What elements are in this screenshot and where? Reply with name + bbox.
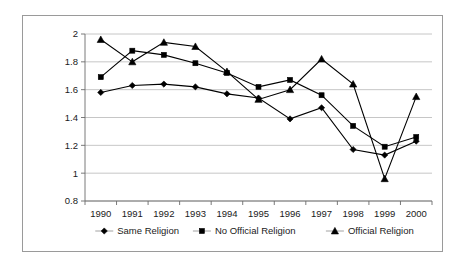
legend-label: Same Religion: [117, 225, 179, 236]
y-tick-label: 2: [73, 28, 78, 39]
data-point: [319, 93, 324, 98]
x-tick-label: 1993: [185, 208, 206, 219]
y-tick-label: 1.6: [65, 84, 78, 95]
data-point: [288, 77, 293, 82]
series-lines-group: [101, 40, 416, 179]
y-tick-label: 1: [73, 168, 78, 179]
data-point: [382, 152, 388, 158]
y-tick-labels: 0.811.21.41.61.82: [65, 28, 78, 206]
line-chart: 0.811.21.41.61.82 1990199119921993199419…: [23, 16, 442, 251]
x-tick-label: 1997: [311, 208, 332, 219]
legend-marker-square: [199, 229, 204, 234]
chart-legend: Same ReligionNo Official ReligionOfficia…: [95, 225, 413, 236]
axes-group: [81, 34, 432, 205]
y-tick-label: 1.8: [65, 56, 78, 67]
series-line-3: [101, 40, 416, 179]
y-tick-label: 1.2: [65, 140, 78, 151]
data-point: [129, 82, 135, 88]
data-point: [256, 84, 261, 89]
x-tick-label: 1998: [343, 208, 364, 219]
x-tick-label: 1992: [153, 208, 174, 219]
x-tick-label: 1996: [279, 208, 300, 219]
chart-frame: 0.811.21.41.61.82 1990199119921993199419…: [22, 15, 443, 252]
x-tick-label: 1995: [248, 208, 269, 219]
data-point: [351, 123, 356, 128]
chart-container: 0.811.21.41.61.82 1990199119921993199419…: [0, 0, 464, 264]
legend-item: Same Religion: [95, 225, 179, 236]
data-point: [97, 36, 104, 43]
data-point: [224, 91, 230, 97]
data-point: [413, 93, 420, 100]
legend-item: Official Religion: [326, 225, 414, 236]
x-tick-labels: 1990199119921993199419951996199719981999…: [90, 208, 427, 219]
data-point: [193, 61, 198, 66]
data-point: [98, 75, 103, 80]
data-point: [161, 52, 166, 57]
x-tick-label: 2000: [406, 208, 427, 219]
data-point: [381, 175, 388, 182]
data-point: [161, 81, 167, 87]
x-tick-label: 1990: [90, 208, 111, 219]
legend-label: Official Religion: [348, 225, 414, 236]
x-tick-label: 1994: [216, 208, 237, 219]
x-tick-label: 1999: [374, 208, 395, 219]
legend-label: No Official Religion: [215, 225, 296, 236]
data-point: [130, 48, 135, 53]
data-point: [414, 134, 419, 139]
data-point: [287, 116, 293, 122]
data-point: [382, 144, 387, 149]
x-tick-label: 1991: [122, 208, 143, 219]
data-point: [160, 39, 167, 46]
y-tick-label: 0.8: [65, 195, 78, 206]
series-markers-group: [97, 36, 420, 182]
data-point: [98, 89, 104, 95]
legend-item: No Official Religion: [193, 225, 296, 236]
y-tick-label: 1.4: [65, 112, 78, 123]
data-point: [192, 84, 198, 90]
data-point: [318, 55, 325, 62]
legend-marker-diamond: [101, 228, 107, 234]
